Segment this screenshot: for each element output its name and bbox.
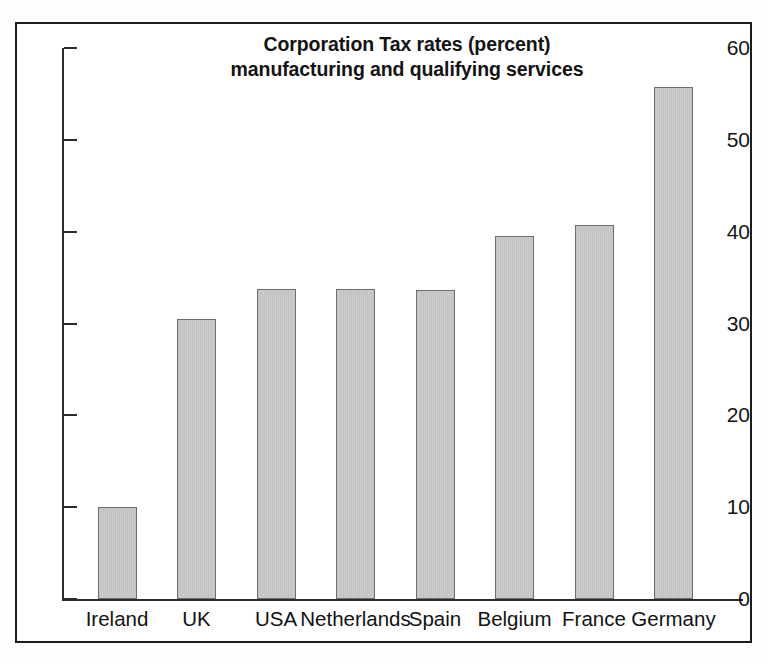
bar-netherlands (336, 289, 375, 599)
x-label-ireland: Ireland (86, 607, 149, 631)
bar-ireland (98, 507, 137, 599)
chart-frame: Corporation Tax rates (percent) manufact… (15, 22, 752, 643)
page-background: Corporation Tax rates (percent) manufact… (0, 0, 768, 664)
x-label-usa: USA (255, 607, 297, 631)
x-label-france: France (562, 607, 626, 631)
bar-belgium (495, 236, 534, 599)
bar-uk (177, 319, 216, 599)
bar-series (17, 24, 750, 641)
x-label-germany: Germany (631, 607, 715, 631)
bar-germany (654, 87, 693, 599)
bar-spain (416, 290, 455, 599)
x-label-spain: Spain (409, 607, 461, 631)
x-label-belgium: Belgium (477, 607, 551, 631)
bar-usa (257, 289, 296, 599)
x-label-uk: UK (182, 607, 210, 631)
x-label-netherlands: Netherlands (300, 607, 411, 631)
plot-area: 0102030405060 IrelandUKUSANetherlandsSpa… (17, 24, 750, 641)
bar-france (575, 225, 614, 599)
